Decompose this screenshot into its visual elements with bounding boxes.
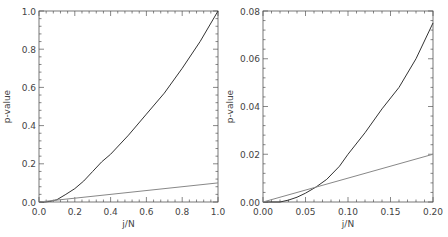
plot-panel-1: 0.00.20.40.60.81.00.00.20.40.60.81.0j/Np… bbox=[2, 7, 225, 230]
p-value-curve bbox=[39, 11, 218, 202]
x-tick-label: 0.20 bbox=[423, 207, 443, 217]
x-tick-label: 0.00 bbox=[253, 207, 273, 217]
y-tick-label: 0.06 bbox=[240, 54, 260, 64]
p-value-curve bbox=[263, 23, 433, 202]
y-tick-label: 1.0 bbox=[22, 7, 37, 17]
chart-figure: 0.00.20.40.60.81.00.00.20.40.60.81.0j/Np… bbox=[0, 0, 448, 237]
x-tick-label: 0.8 bbox=[175, 207, 190, 217]
plot-frame bbox=[39, 11, 218, 202]
y-tick-label: 0.02 bbox=[240, 150, 260, 160]
x-axis-label: j/N bbox=[341, 219, 354, 229]
x-tick-label: 0.0 bbox=[32, 207, 47, 217]
y-tick-label: 0.2 bbox=[22, 159, 36, 169]
y-tick-label: 0.00 bbox=[240, 198, 260, 208]
y-axis-label: p-value bbox=[2, 89, 12, 123]
y-tick-label: 0.08 bbox=[240, 7, 260, 17]
reference-line bbox=[263, 154, 433, 202]
reference-line bbox=[39, 183, 218, 202]
y-tick-label: 0.04 bbox=[240, 102, 260, 112]
x-tick-label: 0.05 bbox=[295, 207, 315, 217]
x-axis-label: j/N bbox=[121, 219, 134, 229]
x-tick-label: 0.2 bbox=[68, 207, 82, 217]
plot-panel-2: 0.000.050.100.150.200.000.020.040.060.08… bbox=[225, 7, 443, 230]
x-tick-label: 0.4 bbox=[103, 207, 118, 217]
x-tick-label: 0.10 bbox=[338, 207, 358, 217]
y-tick-label: 0.4 bbox=[22, 121, 37, 131]
y-axis-label: p-value bbox=[225, 89, 235, 123]
x-tick-label: 1.0 bbox=[211, 207, 226, 217]
x-tick-label: 0.6 bbox=[139, 207, 154, 217]
y-tick-label: 0.6 bbox=[22, 83, 37, 93]
plot-frame bbox=[263, 11, 433, 202]
y-tick-label: 0.0 bbox=[22, 198, 37, 208]
y-tick-label: 0.8 bbox=[22, 45, 37, 55]
x-tick-label: 0.15 bbox=[380, 207, 400, 217]
